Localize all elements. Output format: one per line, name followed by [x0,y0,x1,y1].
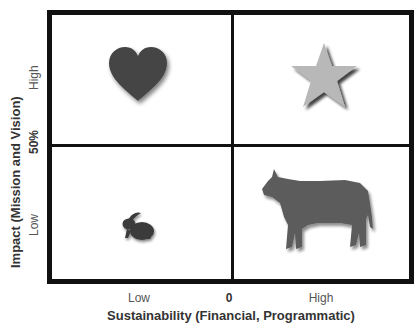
x-axis-low-label: Low [128,291,150,305]
y-axis-high-label: High [27,65,41,90]
x-axis-title: Sustainability (Financial, Programmatic) [107,308,355,323]
x-axis-mid-label: 0 [226,291,233,305]
quadrant-bottom-left [52,147,231,279]
y-axis-title: Impact (Mission and Vision) [8,96,23,268]
x-axis-high-label: High [309,291,334,305]
y-axis-labels: Impact (Mission and Vision) Low 50% High [0,0,45,290]
quadrant-top-left [52,15,231,144]
quadrant-top-right [234,15,409,144]
heart-icon [107,45,173,107]
rabbit-icon [119,211,159,245]
quadrant-bottom-right [234,147,409,279]
y-axis-mid-label: 50% [27,130,41,154]
cow-icon [260,167,380,257]
quadrant-frame [47,10,414,284]
y-axis-low-label: Low [27,214,41,236]
star-icon [290,41,366,117]
